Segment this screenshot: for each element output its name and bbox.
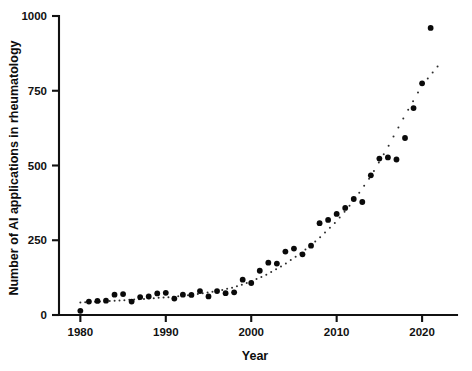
data-point <box>197 288 203 294</box>
data-point <box>223 290 229 296</box>
data-point <box>342 205 348 211</box>
fit-curve-dot <box>158 297 160 299</box>
fit-curve-dot <box>339 217 341 219</box>
fit-curve-dot <box>393 136 395 138</box>
fit-curve-dot <box>378 162 380 164</box>
y-axis-title: Number of AI applications in rheumatolog… <box>7 40 21 295</box>
data-point <box>86 299 92 305</box>
data-point <box>180 292 186 298</box>
fit-curve-dot <box>412 100 414 102</box>
scatter-plot-figure: 02505007501000 19801990200020102020 Year… <box>0 0 472 371</box>
data-point <box>308 243 314 249</box>
fit-curve-dot <box>221 289 223 291</box>
fit-curve-dot <box>226 288 228 290</box>
data-point <box>394 157 400 163</box>
x-axis-title: Year <box>242 349 269 363</box>
data-point <box>163 290 169 296</box>
data-point <box>112 292 118 298</box>
data-point <box>146 294 152 300</box>
data-point <box>103 298 109 304</box>
fit-curve-dot <box>231 287 233 289</box>
fit-curve-dot <box>109 300 111 302</box>
fit-curve-dot <box>236 285 238 287</box>
data-point <box>95 298 101 304</box>
data-point <box>154 291 160 297</box>
fit-curve-dot <box>324 232 326 234</box>
data-point <box>334 211 340 217</box>
fit-curve-dot <box>153 297 155 299</box>
fit-curve-dot <box>407 109 409 111</box>
data-point <box>300 251 306 257</box>
data-point <box>240 277 246 283</box>
data-point <box>351 196 357 202</box>
fit-curve-dot <box>388 145 390 147</box>
data-point <box>402 135 408 141</box>
fit-curve-dot <box>295 256 297 258</box>
data-point <box>385 155 391 161</box>
data-point <box>206 294 212 300</box>
data-point <box>137 294 143 300</box>
data-point <box>283 249 289 255</box>
x-tick-label: 2010 <box>324 326 350 338</box>
data-point <box>171 296 177 302</box>
fit-curve-dot <box>348 205 350 207</box>
fit-curve-dot <box>119 299 121 301</box>
data-point <box>257 268 263 274</box>
fit-curve-dot <box>427 77 429 79</box>
fit-curve-dot <box>123 299 125 301</box>
y-tick-label: 250 <box>28 234 47 246</box>
fit-curve-dot <box>344 211 346 213</box>
fit-curve-dot <box>285 263 287 265</box>
fit-curve-dot <box>402 117 404 119</box>
fit-curve-dot <box>270 271 272 273</box>
data-point <box>325 217 331 223</box>
fit-curve-dot <box>256 278 258 280</box>
y-tick-label: 500 <box>28 160 47 172</box>
fit-curve-dot <box>437 65 439 67</box>
fit-curve-dot <box>358 192 360 194</box>
fit-curve-dot <box>275 268 277 270</box>
fit-curve-dot <box>383 153 385 155</box>
data-point <box>120 291 126 297</box>
fit-curve-dot <box>241 284 243 286</box>
fit-curve-dot <box>246 282 248 284</box>
fit-curve-dot <box>167 296 169 298</box>
data-point <box>274 261 280 267</box>
data-point <box>248 280 254 286</box>
fit-curve-dot <box>265 274 267 276</box>
fit-curve-dot <box>319 236 321 238</box>
data-point <box>317 220 323 226</box>
fit-curve-dot <box>163 297 165 299</box>
data-point <box>214 288 220 294</box>
y-tick-label: 750 <box>28 85 47 97</box>
plot-canvas: 02505007501000 19801990200020102020 Year… <box>0 0 472 371</box>
fit-curve-dot <box>373 170 375 172</box>
data-point <box>265 260 271 266</box>
fit-curve-dot <box>363 185 365 187</box>
fit-curve-dot <box>417 92 419 94</box>
fit-curve-dot <box>368 178 370 180</box>
fit-curve-dot <box>79 301 81 303</box>
fit-curve-dot <box>314 240 316 242</box>
data-point <box>376 156 382 162</box>
y-tick-label: 1000 <box>21 10 47 22</box>
data-point <box>189 292 195 298</box>
fit-curve-dot <box>260 276 262 278</box>
x-tick-label: 2000 <box>238 326 264 338</box>
data-point <box>359 199 365 205</box>
x-tick-label: 1990 <box>153 326 179 338</box>
fit-curve-dot <box>280 265 282 267</box>
data-point <box>77 308 83 314</box>
data-point <box>428 25 434 31</box>
x-tick-label: 1980 <box>68 326 94 338</box>
fit-curve-dot <box>397 127 399 129</box>
fit-curve-dot <box>84 301 86 303</box>
data-point <box>419 80 425 86</box>
data-point <box>291 246 297 252</box>
fit-curve-dot <box>334 222 336 224</box>
data-point <box>231 289 237 295</box>
x-tick-label: 2020 <box>409 326 435 338</box>
fit-curve-dot <box>177 295 179 297</box>
fit-curve-dot <box>329 227 331 229</box>
fit-curve-dot <box>207 292 209 294</box>
